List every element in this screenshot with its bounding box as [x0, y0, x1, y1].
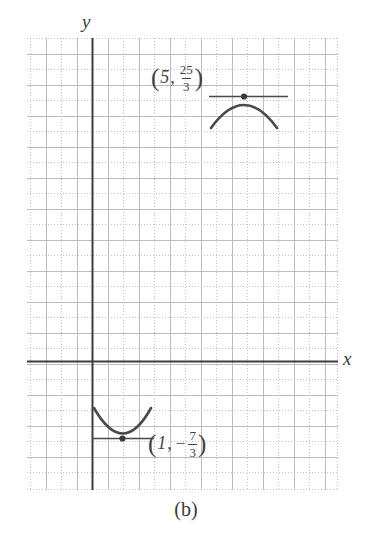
- open-paren: (: [151, 65, 159, 90]
- minus-sign: −: [175, 435, 188, 452]
- fraction-denominator: 3: [188, 444, 197, 460]
- vertex-y-fraction-maximum: 25 3: [178, 63, 195, 93]
- plot-background: [27, 38, 338, 490]
- open-paren: (: [148, 431, 156, 456]
- label-comma: ,: [170, 68, 178, 86]
- vertex-dot-maximum: [241, 93, 247, 99]
- figure-caption: (b): [0, 498, 372, 521]
- y-axis-label: y: [82, 12, 90, 31]
- fraction-denominator: 3: [182, 78, 191, 94]
- close-paren: ): [195, 65, 203, 90]
- close-paren: ): [198, 431, 206, 456]
- vertex-x-value-maximum: 5: [159, 68, 170, 86]
- vertex-label-maximum: ( 5 , 25 3 ): [151, 62, 203, 92]
- graph-figure: y x ( 5 , 25 3 ) ( 1 , − 7 3 ) (b): [0, 0, 372, 558]
- vertex-label-minimum: ( 1 , − 7 3 ): [148, 428, 206, 458]
- vertex-y-fraction-minimum: 7 3: [187, 429, 198, 459]
- vertex-x-value-minimum: 1: [156, 434, 167, 452]
- fraction-numerator: 7: [188, 429, 197, 444]
- label-comma: ,: [167, 434, 175, 452]
- x-axis-label: x: [343, 349, 351, 368]
- vertex-dot-minimum: [119, 435, 125, 441]
- fraction-numerator: 25: [179, 63, 194, 78]
